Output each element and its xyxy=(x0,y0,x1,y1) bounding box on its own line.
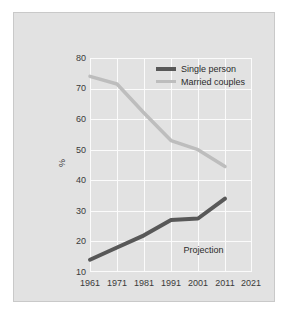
legend-item-single-person: Single person xyxy=(156,62,252,75)
plot-area xyxy=(90,58,252,272)
y-tick-label: 50 xyxy=(64,145,86,155)
x-tick-label: 2021 xyxy=(234,278,268,288)
series-layer xyxy=(90,58,252,272)
y-tick-label: 20 xyxy=(64,236,86,246)
legend-label: Married couples xyxy=(181,77,245,87)
y-tick-label: 80 xyxy=(64,53,86,63)
chart-legend: Single person Married couples xyxy=(156,62,252,88)
chart-panel: 80 70 60 50 40 30 20 10 % xyxy=(13,12,275,302)
legend-swatch-single-person xyxy=(156,67,176,71)
y-tick-label: 40 xyxy=(64,175,86,185)
legend-label: Single person xyxy=(181,64,236,74)
y-axis-title: % xyxy=(57,155,67,171)
legend-swatch-married-couples xyxy=(156,80,176,83)
y-tick-label: 60 xyxy=(64,114,86,124)
chart-figure: 80 70 60 50 40 30 20 10 % xyxy=(0,0,290,319)
y-tick-label: 10 xyxy=(64,267,86,277)
legend-item-married-couples: Married couples xyxy=(156,75,252,88)
projection-annotation: Projection xyxy=(184,245,224,255)
x-axis-tick-labels: 1961 1971 1981 1991 2001 2011 2021 xyxy=(90,278,252,292)
series-line-married-couples xyxy=(90,76,225,166)
y-tick-label: 30 xyxy=(64,206,86,216)
y-tick-label: 70 xyxy=(64,83,86,93)
